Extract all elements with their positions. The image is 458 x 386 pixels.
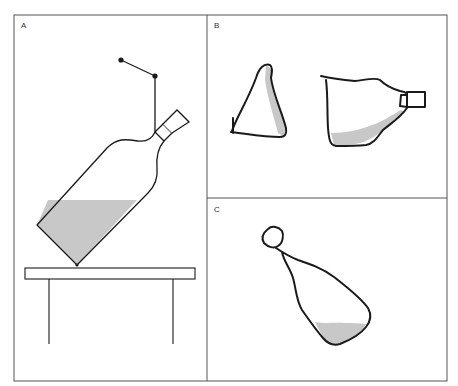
bottle-cap xyxy=(163,110,189,133)
bottle-outline xyxy=(37,132,164,265)
panel-a-drawing xyxy=(25,57,195,344)
triangle-shading xyxy=(265,66,285,136)
pivot-joint-icon xyxy=(152,73,157,78)
pivot-arm xyxy=(121,60,155,133)
pivot-point-icon xyxy=(118,57,123,62)
bottle-b-cap xyxy=(400,92,425,107)
panel-label-b: B xyxy=(214,21,219,30)
panel-frame xyxy=(14,15,447,381)
panel-c-drawing xyxy=(263,227,371,345)
panel-b-drawing xyxy=(231,65,425,146)
bottle-b-liquid xyxy=(331,110,405,145)
panel-label-a: A xyxy=(21,21,26,30)
contact-point-icon xyxy=(75,263,78,266)
figure: A B C xyxy=(0,0,458,386)
figure-drawing xyxy=(0,0,458,386)
table-top xyxy=(25,268,195,279)
bottle-c-cap xyxy=(263,227,283,248)
panel-label-c: C xyxy=(214,205,220,214)
